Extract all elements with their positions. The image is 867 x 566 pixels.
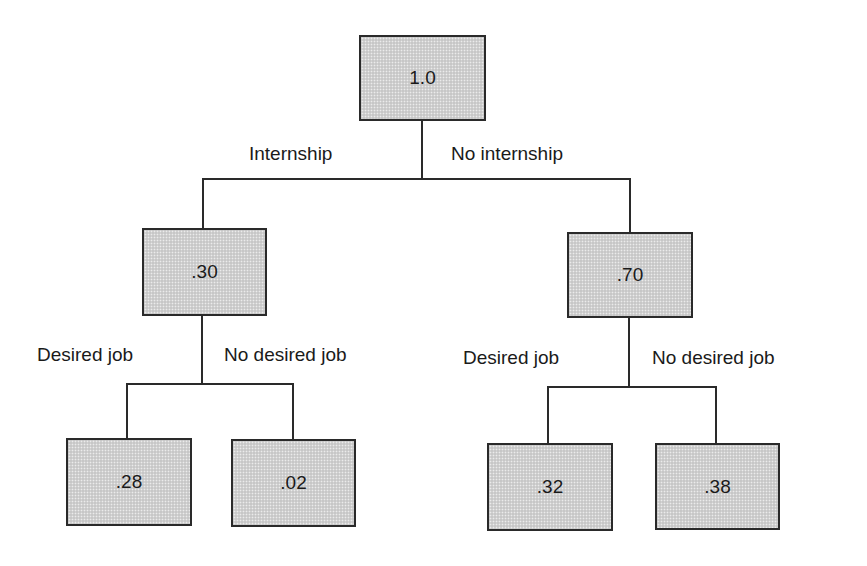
no-internship-desired-drop-connector [547,386,549,444]
internship-stem-connector [201,315,203,385]
root-node: 1.0 [359,35,486,121]
root-node-value: 1.0 [409,67,435,89]
leaf-value: .38 [704,476,730,498]
internship-drop-connector [202,178,204,229]
root-stem-connector [421,120,423,180]
no-internship-horizontal-connector [547,386,717,388]
leaf-no-internship-no-desired-job: .38 [655,443,780,530]
no-internship-node: .70 [567,232,693,318]
level1-horizontal-connector [202,178,631,180]
internship-node: .30 [142,228,267,316]
internship-no-desired-drop-connector [292,383,294,440]
leaf-no-internship-desired-job: .32 [487,443,613,531]
internship-horizontal-connector [126,383,294,385]
leaf-value: .32 [537,476,563,498]
leaf-internship-desired-job: .28 [66,438,192,526]
leaf-value: .28 [116,471,142,493]
edge-label-internship: Internship [249,143,332,165]
internship-desired-drop-connector [126,383,128,439]
edge-label-internship-desired-job: Desired job [37,344,133,366]
leaf-internship-no-desired-job: .02 [231,439,356,527]
edge-label-internship-no-desired-job: No desired job [224,344,347,366]
edge-label-no-internship: No internship [451,143,563,165]
internship-node-value: .30 [191,261,217,283]
edge-label-no-internship-no-desired-job: No desired job [652,347,775,369]
no-internship-drop-connector [629,178,631,233]
no-internship-stem-connector [628,317,630,388]
leaf-value: .02 [280,472,306,494]
edge-label-no-internship-desired-job: Desired job [463,347,559,369]
no-internship-node-value: .70 [617,264,643,286]
no-internship-no-desired-drop-connector [715,386,717,444]
